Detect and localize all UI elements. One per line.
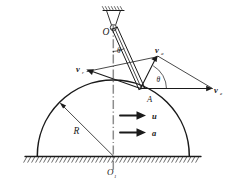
label-v-a-main: v bbox=[155, 45, 159, 55]
label-center-sub: 1 bbox=[114, 174, 117, 179]
label-angle-theta-top: θ bbox=[117, 46, 121, 55]
velocity-parallelogram bbox=[87, 57, 213, 89]
label-v-r-main: v bbox=[76, 64, 80, 74]
label-v-a-sub: a bbox=[161, 51, 164, 56]
mechanics-figure: O θ v r v a v e θ A R u a O 1 bbox=[0, 0, 225, 182]
label-radius-R: R bbox=[73, 126, 80, 136]
arrow-a bbox=[120, 128, 146, 136]
label-v-e-sub: e bbox=[220, 91, 223, 96]
label-velocity-relative: v r bbox=[76, 64, 84, 76]
arrow-u bbox=[120, 111, 146, 119]
label-translation-acceleration-a: a bbox=[152, 128, 157, 138]
label-translation-velocity-u: u bbox=[152, 111, 157, 121]
label-angle-theta-at-A: θ bbox=[157, 75, 161, 84]
label-contact-point-A: A bbox=[146, 94, 153, 104]
vector-v-a bbox=[141, 55, 158, 88]
label-pivot-O: O bbox=[103, 27, 110, 37]
label-center-main: O bbox=[107, 167, 114, 177]
figure-canvas: O θ v r v a v e θ A R u a O 1 bbox=[0, 0, 225, 182]
label-v-e-main: v bbox=[214, 85, 218, 95]
ceiling-support bbox=[102, 6, 124, 24]
label-center-O1: O 1 bbox=[107, 167, 117, 179]
ground-line bbox=[24, 157, 201, 163]
radius-indicator bbox=[60, 103, 114, 156]
label-velocity-absolute: v a bbox=[155, 45, 164, 57]
label-velocity-transport: v e bbox=[214, 85, 223, 97]
label-v-r-sub: r bbox=[82, 70, 84, 75]
